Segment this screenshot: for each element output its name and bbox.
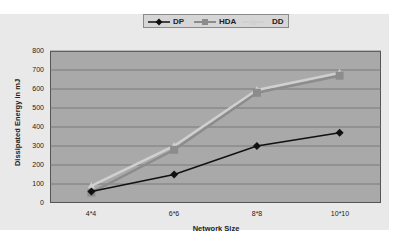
square-marker-icon — [253, 89, 261, 97]
y-tick: 600 — [18, 85, 44, 92]
y-tick: 0 — [18, 199, 44, 206]
diamond-marker-icon — [170, 171, 178, 179]
y-tick: 200 — [18, 161, 44, 168]
series-line-dd — [91, 73, 339, 186]
series-line-dp — [91, 133, 339, 192]
diamond-marker-icon — [253, 142, 261, 150]
x-tick: 6*6 — [154, 210, 194, 217]
diamond-marker-icon — [336, 129, 344, 137]
square-marker-icon — [170, 146, 178, 154]
y-tick: 800 — [18, 47, 44, 54]
x-tick: 10*10 — [320, 210, 360, 217]
y-tick: 400 — [18, 123, 44, 130]
x-axis-label: Network Size — [166, 224, 266, 233]
series-line-hda — [91, 76, 339, 193]
y-tick: 700 — [18, 66, 44, 73]
square-marker-icon — [336, 72, 344, 80]
y-axis-label: Dissipated Energy in mJ — [13, 58, 22, 188]
y-tick: 500 — [18, 104, 44, 111]
y-tick: 100 — [18, 180, 44, 187]
x-tick: 4*4 — [71, 210, 111, 217]
y-tick: 300 — [18, 142, 44, 149]
x-tick: 8*8 — [237, 210, 277, 217]
